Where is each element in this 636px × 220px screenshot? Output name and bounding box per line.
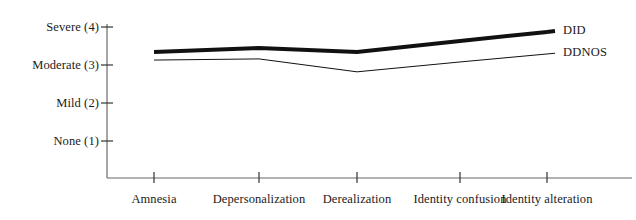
series-label-ddnos: DDNOS bbox=[563, 46, 607, 59]
y-axis-tick-label: Moderate (3) bbox=[32, 59, 99, 72]
y-axis-tick-label: Mild (2) bbox=[56, 97, 99, 110]
legend-leader-ddnos bbox=[547, 53, 555, 54]
x-axis-tick-label: Identity alteration bbox=[427, 193, 636, 206]
series-line-ddnos bbox=[154, 54, 547, 72]
legend-leader-did bbox=[547, 31, 555, 32]
y-axis-tick-label: None (1) bbox=[53, 135, 99, 148]
series-line-did bbox=[154, 32, 547, 52]
y-axis-tick-label: Severe (4) bbox=[46, 21, 99, 34]
series-label-did: DID bbox=[563, 24, 586, 37]
series-lines bbox=[154, 32, 547, 72]
legend-leader-lines bbox=[547, 31, 555, 54]
line-chart: Severe (4)Moderate (3)Mild (2)None (1) A… bbox=[0, 0, 636, 220]
